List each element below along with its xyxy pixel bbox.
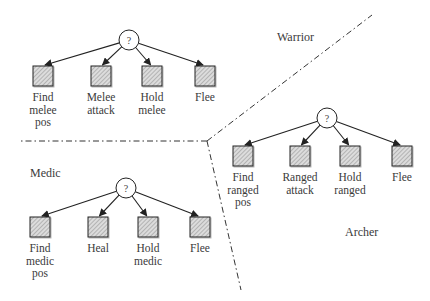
tree-edge: [301, 125, 320, 145]
region-label-medic: Medic: [30, 166, 61, 181]
action-node: [392, 146, 412, 166]
tree-warrior: ?: [33, 30, 215, 86]
action-label: Holdmedic: [118, 242, 178, 267]
tree-edge: [333, 126, 348, 145]
action-node: [33, 66, 53, 86]
selector-symbol: ?: [124, 183, 129, 194]
action-node: [290, 146, 310, 166]
tree-archer: ?: [233, 108, 412, 166]
action-node: [142, 66, 162, 86]
tree-medic: ?: [30, 178, 210, 237]
action-label: Findmeleepos: [13, 91, 73, 129]
region-label-warrior: Warrior: [277, 30, 314, 45]
tree-edge: [136, 47, 151, 65]
tree-edge: [132, 196, 147, 216]
tree-edge: [45, 43, 120, 65]
tree-edge: [42, 191, 117, 216]
action-node: [340, 146, 360, 166]
region-label-archer: Archer: [345, 225, 378, 240]
action-node: [91, 66, 111, 86]
action-label: Flee: [372, 171, 430, 184]
action-node: [233, 146, 253, 166]
action-label: Findrangedpos: [213, 171, 273, 209]
tree-edge: [99, 195, 119, 216]
action-node: [195, 66, 215, 86]
action-label: Findmedicpos: [10, 242, 70, 280]
tree-edge: [102, 47, 121, 65]
action-label: Holdmelee: [122, 91, 182, 116]
tree-edge: [245, 121, 318, 145]
action-label: Flee: [175, 91, 235, 104]
action-node: [88, 217, 108, 237]
action-node: [190, 217, 210, 237]
action-label: Flee: [170, 242, 230, 255]
action-node: [138, 217, 158, 237]
selector-symbol: ?: [325, 113, 330, 124]
selector-symbol: ?: [127, 35, 132, 46]
action-node: [30, 217, 50, 237]
action-label: Holdranged: [320, 171, 380, 196]
